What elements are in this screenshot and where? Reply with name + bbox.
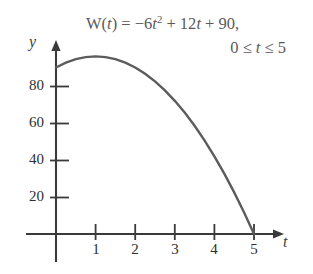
y-axis-label: y <box>29 33 36 51</box>
parabola-curve <box>56 56 254 234</box>
y-tick-label-60: 60 <box>14 114 44 131</box>
equation-line-2: 0 ≤ t ≤ 5 <box>70 36 288 60</box>
y-tick-label-40: 40 <box>14 151 44 168</box>
equation-annotation: W(t) = −6t2 + 12t + 90, 0 ≤ t ≤ 5 <box>70 12 288 60</box>
x-axis-label: t <box>283 233 287 251</box>
x-tick-label-4: 4 <box>206 241 222 258</box>
x-tick-label-2: 2 <box>127 241 143 258</box>
y-tick-label-20: 20 <box>14 188 44 205</box>
x-tick-label-1: 1 <box>88 241 104 258</box>
equation-line-1: W(t) = −6t2 + 12t + 90, <box>70 12 288 36</box>
x-tick-label-3: 3 <box>167 241 183 258</box>
x-tick-label-5: 5 <box>246 241 262 258</box>
y-tick-label-80: 80 <box>14 77 44 94</box>
y-axis-arrowhead <box>51 40 60 51</box>
